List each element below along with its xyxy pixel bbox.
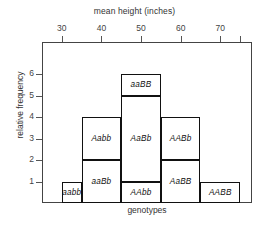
chart-figure: mean height (inches) relative frequency … [0,0,269,241]
x-tick-60 [181,36,182,42]
y-tick-label-5: 5 [22,90,34,100]
bar-segment-Aabb: Aabb [82,117,122,160]
bar-segment-label: AABB [209,188,232,197]
x-tick-edge-0 [62,36,63,42]
bar-segment-label: aaBB [131,80,152,89]
bar-segment-aaBb: aaBb [82,160,122,203]
bar-segment-AABB: AABB [200,182,240,204]
bar-segment-label: AaBB [170,177,192,186]
y-axis-title: relative frequency [15,45,25,165]
bar-segment-aabb: aabb [62,182,82,204]
bar-segment-label: AAbb [131,188,152,197]
bar-segment-label: AaBb [131,134,152,143]
bar-segment-AaBB: AaBB [161,160,201,203]
y-tick-label-1: 1 [22,176,34,186]
y-tick-label-4: 4 [22,111,34,121]
bar-segment-AABb: AABb [161,117,201,160]
x-axis-title: genotypes [42,205,252,215]
bar-segment-AAbb: AAbb [121,182,161,204]
y-tick-1 [36,182,42,183]
bar-segment-AaBb: AaBb [121,96,161,182]
x-tick-label-30: 30 [50,23,74,33]
y-tick-3 [36,139,42,140]
y-tick-5 [36,96,42,97]
bar-segment-label: Aabb [91,134,111,143]
x-tick-edge-1 [240,36,241,42]
y-tick-label-2: 2 [22,154,34,164]
y-tick-2 [36,160,42,161]
top-axis-title: mean height (inches) [0,6,269,16]
bar-segment-label: aaBb [91,177,111,186]
y-tick-label-6: 6 [22,68,34,78]
x-tick-label-50: 50 [129,23,153,33]
x-tick-label-70: 70 [208,23,232,33]
bar-segment-label: AABb [170,134,192,143]
x-tick-label-40: 40 [89,23,113,33]
x-tick-70 [220,36,221,42]
bar-segment-label: aabb [62,188,81,197]
y-tick-4 [36,117,42,118]
x-tick-40 [101,36,102,42]
y-tick-label-3: 3 [22,133,34,143]
bar-segment-aaBB: aaBB [121,74,161,96]
x-tick-label-60: 60 [169,23,193,33]
x-tick-50 [141,36,142,42]
y-tick-6 [36,74,42,75]
